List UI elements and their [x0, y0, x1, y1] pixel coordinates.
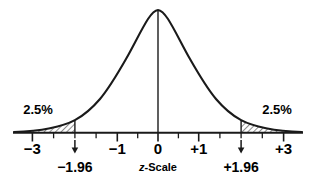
tick-label-+1: +1 [190, 140, 207, 157]
tick-label--3: −3 [24, 140, 41, 157]
tick-label--1: −1 [109, 140, 126, 157]
normal-curve-figure: −3 −1 0 +1 +3 2.5% 2.5% −1.96 +1.96 z-Sc… [0, 0, 316, 177]
normal-curve-svg: −3 −1 0 +1 +3 2.5% 2.5% −1.96 +1.96 z-Sc… [0, 0, 316, 177]
right-tail-percent-label: 2.5% [262, 102, 292, 117]
left-tail-percent-label: 2.5% [23, 102, 53, 117]
tick-label-0: 0 [154, 140, 162, 157]
tick-label-+3: +3 [275, 140, 292, 157]
left-critical-value-label: −1.96 [57, 159, 93, 175]
axis-title-rest: -Scale [145, 161, 177, 173]
axis-title: z-Scale [138, 161, 177, 173]
right-critical-value-label: +1.96 [223, 159, 259, 175]
